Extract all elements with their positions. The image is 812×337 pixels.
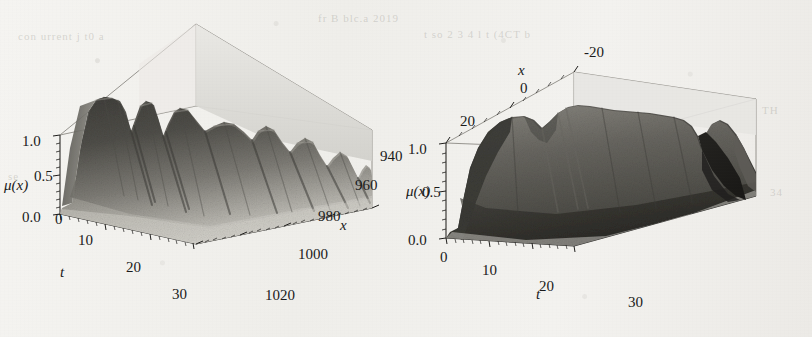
surface-plot-right: 1.0 0.5 0.0 0 10 20 30 -20 0 20 μ(x) t x [406,0,812,337]
x-axis-title: x [517,62,525,78]
z-axis-title: μ(x) [3,177,28,194]
z-axis-title: μ(x) [406,183,430,200]
z-tick-label: 1.0 [408,141,427,157]
left-plot-svg: 1.0 0.5 0.0 0 10 20 30 940 960 980 1000 … [0,0,406,337]
z-tick-label: 1.0 [22,133,41,149]
x-axis-title: x [339,217,347,233]
z-tick-label: 0.5 [34,168,53,184]
t-tick-label: 10 [482,262,497,278]
x-tick-label: -20 [584,44,604,60]
surface-plot-left: 1.0 0.5 0.0 0 10 20 30 940 960 980 1000 … [0,0,406,337]
z-tick-label: 0.0 [22,209,41,225]
right-plot-svg: 1.0 0.5 0.0 0 10 20 30 -20 0 20 μ(x) t x [406,0,812,337]
x-tick-label: 1020 [265,287,295,303]
t-tick-label: 20 [126,259,141,275]
z-tick-label: 0.0 [408,232,427,248]
x-tick-label: 940 [380,148,403,164]
t-tick-label: 0 [55,211,63,227]
x-tick-label: 0 [520,80,528,96]
x-tick-label: 980 [318,208,341,224]
t-tick-label: 10 [78,232,93,248]
z-axis-left [53,135,60,215]
t-tick-label: 30 [628,294,643,310]
t-tick-label: 0 [440,249,448,265]
x-tick-label: 1000 [298,246,328,262]
t-tick-label: 20 [539,278,554,294]
x-tick-label: 20 [460,113,475,129]
t-axis-title: t [60,264,65,280]
x-tick-label: 960 [355,177,378,193]
t-tick-label: 30 [172,286,187,302]
